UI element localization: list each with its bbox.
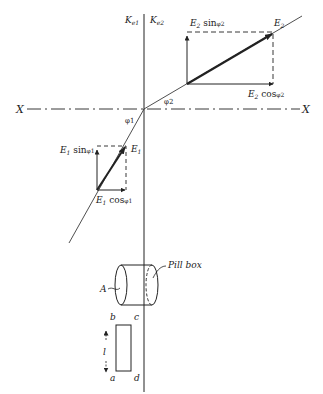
label-phi2: φ2 — [164, 98, 173, 106]
label-corner-c: c — [134, 312, 139, 322]
label-pillbox: Pill box — [167, 260, 202, 270]
label-x-right: X — [301, 103, 311, 116]
label-k2: Ke2 — [149, 15, 164, 26]
label-e2: E2 — [273, 18, 285, 29]
label-e1-sin: E1 sinφ1 — [59, 145, 95, 156]
label-e2-cos: E2 cosφ2 — [247, 89, 285, 100]
label-corner-d: d — [134, 373, 140, 383]
label-k1: Ke1 — [124, 15, 139, 26]
label-x-left: X — [15, 103, 25, 116]
contour-abcd — [116, 325, 131, 371]
refraction-diagram: Ke1 Ke2 X X φ1 φ2 E2 E2 sinφ2 E2 cosφ2 E… — [0, 0, 323, 394]
label-corner-a: a — [110, 373, 115, 383]
e1-decomposition — [97, 146, 126, 190]
e2-decomposition — [187, 32, 273, 84]
label-corner-b: b — [110, 312, 116, 322]
label-e2-sin: E2 sinφ2 — [189, 18, 225, 29]
label-e1-cos: E1 cosφ1 — [95, 195, 132, 206]
label-phi1: φ1 — [125, 117, 134, 125]
pillbox — [108, 265, 166, 305]
label-e1: E1 — [130, 144, 141, 155]
label-length: l — [103, 347, 106, 357]
label-area-a: A — [99, 284, 107, 294]
